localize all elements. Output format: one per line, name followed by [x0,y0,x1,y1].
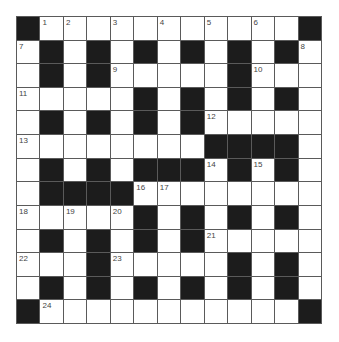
letter-cell[interactable] [181,300,203,323]
letter-cell[interactable] [64,88,86,111]
letter-cell[interactable] [158,277,180,300]
letter-cell[interactable] [205,300,227,323]
letter-cell[interactable] [134,64,156,87]
letter-cell[interactable]: 17 [158,182,180,205]
letter-cell[interactable] [158,300,180,323]
letter-cell[interactable] [87,300,109,323]
letter-cell[interactable]: 20 [111,206,133,229]
letter-cell[interactable]: 14 [205,159,227,182]
letter-cell[interactable] [299,230,321,253]
letter-cell[interactable] [87,135,109,158]
letter-cell[interactable] [111,277,133,300]
letter-cell[interactable] [252,206,274,229]
letter-cell[interactable] [299,88,321,111]
letter-cell[interactable] [158,111,180,134]
letter-cell[interactable]: 4 [158,17,180,40]
letter-cell[interactable] [181,135,203,158]
letter-cell[interactable] [64,300,86,323]
letter-cell[interactable] [158,253,180,276]
letter-cell[interactable]: 11 [17,88,39,111]
letter-cell[interactable] [228,230,250,253]
letter-cell[interactable] [134,135,156,158]
letter-cell[interactable] [17,182,39,205]
letter-cell[interactable] [64,135,86,158]
letter-cell[interactable]: 22 [17,253,39,276]
letter-cell[interactable]: 3 [111,17,133,40]
letter-cell[interactable] [17,111,39,134]
letter-cell[interactable] [17,277,39,300]
letter-cell[interactable] [134,17,156,40]
letter-cell[interactable] [181,64,203,87]
letter-cell[interactable] [299,111,321,134]
letter-cell[interactable]: 2 [64,17,86,40]
letter-cell[interactable] [275,64,297,87]
letter-cell[interactable] [111,300,133,323]
letter-cell[interactable]: 13 [17,135,39,158]
letter-cell[interactable] [111,159,133,182]
letter-cell[interactable] [228,17,250,40]
letter-cell[interactable] [17,230,39,253]
letter-cell[interactable] [87,88,109,111]
letter-cell[interactable] [205,206,227,229]
letter-cell[interactable] [205,182,227,205]
letter-cell[interactable]: 19 [64,206,86,229]
letter-cell[interactable] [87,206,109,229]
letter-cell[interactable] [64,41,86,64]
letter-cell[interactable] [64,159,86,182]
letter-cell[interactable] [299,159,321,182]
letter-cell[interactable] [64,64,86,87]
letter-cell[interactable]: 7 [17,41,39,64]
letter-cell[interactable] [299,182,321,205]
letter-cell[interactable] [275,230,297,253]
letter-cell[interactable] [228,182,250,205]
letter-cell[interactable] [111,111,133,134]
letter-cell[interactable] [205,88,227,111]
letter-cell[interactable] [252,277,274,300]
letter-cell[interactable] [299,64,321,87]
letter-cell[interactable] [205,277,227,300]
letter-cell[interactable] [275,17,297,40]
letter-cell[interactable] [40,135,62,158]
letter-cell[interactable] [275,182,297,205]
letter-cell[interactable] [299,135,321,158]
letter-cell[interactable] [158,206,180,229]
letter-cell[interactable]: 1 [40,17,62,40]
letter-cell[interactable] [64,230,86,253]
letter-cell[interactable]: 10 [252,64,274,87]
letter-cell[interactable] [252,111,274,134]
letter-cell[interactable] [64,111,86,134]
letter-cell[interactable]: 21 [205,230,227,253]
letter-cell[interactable]: 8 [299,41,321,64]
letter-cell[interactable] [299,253,321,276]
letter-cell[interactable]: 18 [17,206,39,229]
letter-cell[interactable] [181,182,203,205]
letter-cell[interactable]: 16 [134,182,156,205]
letter-cell[interactable] [299,206,321,229]
letter-cell[interactable] [158,230,180,253]
letter-cell[interactable] [252,253,274,276]
letter-cell[interactable] [87,17,109,40]
letter-cell[interactable] [134,300,156,323]
letter-cell[interactable] [40,88,62,111]
letter-cell[interactable] [158,64,180,87]
letter-cell[interactable] [181,17,203,40]
letter-cell[interactable] [181,253,203,276]
letter-cell[interactable] [252,230,274,253]
letter-cell[interactable] [205,41,227,64]
letter-cell[interactable] [134,253,156,276]
letter-cell[interactable] [252,88,274,111]
letter-cell[interactable] [158,41,180,64]
letter-cell[interactable] [252,300,274,323]
letter-cell[interactable] [111,41,133,64]
letter-cell[interactable]: 5 [205,17,227,40]
letter-cell[interactable]: 24 [40,300,62,323]
letter-cell[interactable] [17,159,39,182]
letter-cell[interactable] [275,111,297,134]
letter-cell[interactable]: 23 [111,253,133,276]
letter-cell[interactable]: 12 [205,111,227,134]
letter-cell[interactable] [228,111,250,134]
letter-cell[interactable]: 15 [252,159,274,182]
letter-cell[interactable] [40,206,62,229]
letter-cell[interactable]: 6 [252,17,274,40]
letter-cell[interactable] [252,182,274,205]
